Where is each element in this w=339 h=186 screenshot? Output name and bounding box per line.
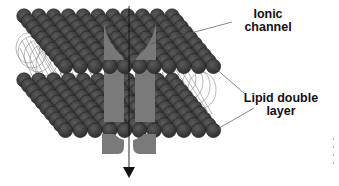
top-lipid-layer	[17, 9, 221, 74]
label-lipid-line2: layer	[232, 105, 330, 118]
lipid-head	[191, 59, 206, 74]
lipid-head	[177, 59, 192, 74]
label-ionic-channel: Ionic channel	[236, 8, 300, 34]
lipid-head	[103, 59, 118, 74]
channel-left-pillar	[104, 66, 124, 122]
lipid-head	[206, 59, 221, 74]
lipid-head	[206, 123, 221, 138]
lipid-head	[88, 59, 103, 74]
channel-left-lobe	[102, 134, 124, 154]
lipid-head	[58, 123, 73, 138]
lipid-head	[147, 59, 162, 74]
lipid-head	[73, 123, 88, 138]
leader-lipid-top	[214, 67, 245, 94]
arrow-head-icon	[123, 167, 135, 178]
channel-right-pillar	[135, 66, 155, 122]
lipid-head	[117, 59, 132, 74]
lipid-head	[132, 59, 147, 74]
lipid-head	[191, 123, 206, 138]
edge-scan-marks	[333, 138, 335, 178]
lipid-head	[162, 59, 177, 74]
lipid-head	[58, 59, 73, 74]
lipid-head	[177, 123, 192, 138]
lipid-head	[117, 123, 132, 138]
lipid-head	[162, 123, 177, 138]
lipid-head	[73, 59, 88, 74]
lipid-head	[88, 123, 103, 138]
label-lipid-double-layer: Lipid double layer	[232, 92, 330, 118]
label-ionic-line2: channel	[236, 21, 300, 34]
